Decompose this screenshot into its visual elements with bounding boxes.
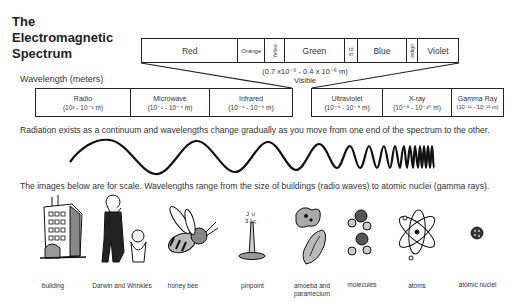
svg-text:J ∪: J ∪	[246, 211, 255, 217]
scale-label-darwin: Darwin and Wrinkles	[82, 282, 162, 290]
band-name: Ultraviolet	[331, 94, 362, 103]
visible-zoom-line-left	[141, 63, 292, 88]
band-name: Radio	[74, 94, 92, 103]
spectrum-bands-right: Ultraviolet (10⁻⁶ - 10⁻⁸ m) X-ray (10⁻⁸ …	[311, 88, 504, 117]
molecules-icon	[348, 210, 371, 255]
atomic-nucleus-icon	[471, 227, 483, 239]
scale-label-honey-bee: honey bee	[163, 282, 203, 290]
band-range: (10⁻¹ - 10⁻⁴ m)	[148, 103, 193, 112]
atom-icon	[395, 209, 439, 260]
scale-label-molecules: molecules	[342, 281, 382, 289]
pinpoint-icon: J ∪ 3 | ς	[239, 211, 265, 260]
band-name: Infrared	[239, 94, 263, 103]
wave-icon	[70, 140, 434, 174]
amoeba-icon	[296, 208, 326, 264]
spectrum-bands-left: Radio (10³ - 10⁻¹ m) Microwave (10⁻¹ - 1…	[35, 88, 293, 117]
scale-label-pinpoint: pinpoint	[235, 282, 270, 290]
scale-label-amoeba: amoeba and paramecium	[287, 282, 337, 298]
band-gamma-ray: Gamma Ray (10⁻¹¹ - 10⁻¹² m)	[452, 89, 503, 116]
band-range: (10⁻⁶ - 10⁻⁸ m)	[324, 103, 369, 112]
band-ultraviolet: Ultraviolet (10⁻⁶ - 10⁻⁸ m)	[312, 89, 383, 116]
person-and-dog-icon	[102, 195, 146, 262]
band-name: Gamma Ray	[458, 94, 497, 103]
scale-label-atomic-nuclei: atomic nuclei	[450, 281, 505, 289]
band-infrared: Infrared (10⁻⁴ - 10⁻⁶ m)	[210, 89, 292, 116]
continuum-sentence: Radiation exists as a continuum and wave…	[20, 125, 490, 135]
band-radio: Radio (10³ - 10⁻¹ m)	[36, 89, 131, 116]
building-icon	[40, 195, 86, 258]
band-name: Microwave	[153, 94, 186, 103]
band-x-ray: X-ray (10⁻⁸ - 10⁻¹⁰ m)	[383, 89, 452, 116]
scale-sentence: The images below are for scale. Waveleng…	[20, 181, 489, 191]
band-range: (10⁻¹¹ - 10⁻¹² m)	[456, 103, 498, 112]
scale-label-building: building	[33, 282, 73, 290]
band-range: (10⁻⁴ - 10⁻⁶ m)	[228, 103, 273, 112]
scale-label-atoms: atoms	[397, 282, 437, 290]
svg-text:3 | ς: 3 | ς	[245, 218, 256, 224]
band-range: (10⁻⁸ - 10⁻¹⁰ m)	[393, 103, 441, 112]
visible-zoom-line-right	[312, 63, 459, 88]
diagram-graphics: J ∪ 3 | ς	[0, 0, 530, 308]
band-range: (10³ - 10⁻¹ m)	[63, 103, 103, 112]
band-microwave: Microwave (10⁻¹ - 10⁻⁴ m)	[131, 89, 210, 116]
band-name: X-ray	[409, 94, 426, 103]
honey-bee-icon	[166, 204, 218, 256]
